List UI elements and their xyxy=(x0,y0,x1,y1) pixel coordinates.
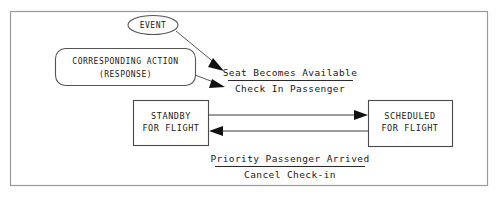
action-legend-pointer-arrowhead xyxy=(209,79,225,88)
transition-2-arrowhead xyxy=(209,126,223,136)
state-standby-line1: STANDBY xyxy=(151,111,191,121)
transition-1-event-label: Seat Becomes Available xyxy=(223,67,358,78)
state-scheduled-line1: SCHEDULED xyxy=(384,111,435,121)
state-scheduled-line2: FOR FLIGHT xyxy=(381,123,438,133)
action-legend-box xyxy=(56,49,196,86)
state-transition-diagram: EVENT CORRESPONDING ACTION (RESPONSE) Se… xyxy=(0,0,501,197)
transition-1-arrowhead xyxy=(354,110,368,120)
state-standby-line2: FOR FLIGHT xyxy=(142,123,199,133)
transition-2-event-label: Priority Passenger Arrived xyxy=(210,153,369,164)
action-legend-label-line1: CORRESPONDING ACTION xyxy=(72,57,178,66)
action-legend-label-line2: (RESPONSE) xyxy=(99,70,152,79)
transition-2-action-label: Cancel Check-in xyxy=(244,169,336,180)
event-legend-label: EVENT xyxy=(140,21,167,30)
diagram-canvas: EVENT CORRESPONDING ACTION (RESPONSE) Se… xyxy=(0,0,501,197)
transition-1-action-label: Check In Passenger xyxy=(235,83,345,94)
